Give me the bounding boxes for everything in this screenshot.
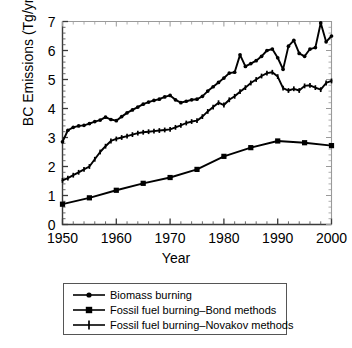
legend-label: Fossil fuel burning–Bond methods (106, 304, 276, 316)
data-point (287, 44, 291, 48)
y-axis-label: BC Emissions (Tg/yr) (20, 0, 36, 150)
data-point (201, 94, 205, 98)
data-point (254, 59, 258, 63)
legend-marker-plus-icon (72, 318, 106, 332)
data-point (211, 85, 215, 89)
data-point (303, 54, 307, 58)
data-point (221, 154, 226, 159)
data-point (292, 39, 296, 43)
data-point (152, 99, 156, 103)
y-tick-label: 5 (48, 72, 56, 88)
x-tick-label: 1960 (101, 230, 132, 246)
data-point (308, 47, 312, 51)
legend: Biomass burning Fossil fuel burning–Bond… (63, 283, 287, 335)
series-line (63, 72, 332, 180)
data-point (120, 115, 124, 119)
data-point (114, 119, 118, 123)
data-point (131, 108, 135, 112)
data-point (104, 115, 108, 119)
y-tick-label: 1 (48, 188, 56, 204)
data-point (265, 49, 269, 53)
data-point (195, 97, 199, 101)
data-point (174, 98, 178, 102)
data-point (87, 195, 92, 200)
legend-item-fossil-fuel-novakov: Fossil fuel burning–Novakov methods (64, 317, 286, 332)
data-point (275, 138, 280, 143)
data-point (324, 40, 328, 44)
series-layer (60, 21, 334, 207)
data-point (297, 52, 301, 56)
data-point (71, 126, 75, 130)
data-point (93, 120, 97, 124)
data-point (260, 54, 264, 58)
data-point (190, 98, 194, 102)
data-point (163, 95, 167, 99)
data-point (238, 53, 242, 57)
data-point (314, 46, 318, 50)
x-tick-label: 1970 (155, 230, 186, 246)
axes-layer: 01234567195019601970198019902000 (47, 14, 347, 246)
data-point (249, 62, 253, 66)
data-point (179, 101, 183, 105)
y-tick-label: 2 (48, 159, 56, 175)
x-tick-label: 2000 (316, 230, 347, 246)
data-point (222, 76, 226, 80)
y-tick-label: 4 (48, 101, 56, 117)
data-point (157, 97, 161, 101)
data-point (147, 100, 151, 104)
legend-item-fossil-fuel-bond: Fossil fuel burning–Bond methods (64, 302, 286, 317)
data-point (168, 175, 173, 180)
legend-label: Fossil fuel burning–Novakov methods (106, 319, 293, 331)
data-point (330, 34, 334, 38)
legend-label: Biomass burning (106, 289, 192, 301)
y-tick-label: 7 (48, 14, 56, 30)
series-3 (63, 70, 332, 183)
figure: 01234567195019601970198019902000 BC Emis… (0, 0, 352, 348)
data-point (248, 145, 253, 150)
data-point (233, 70, 237, 74)
x-axis-label: Year (0, 250, 352, 266)
data-point (319, 21, 323, 25)
data-point (206, 89, 210, 93)
data-point (168, 94, 172, 98)
data-point (114, 188, 119, 193)
data-point (217, 81, 221, 85)
data-point (98, 118, 102, 122)
data-point (281, 68, 285, 72)
data-point (125, 111, 129, 115)
y-tick-label: 6 (48, 43, 56, 59)
legend-marker-square-icon (72, 303, 106, 317)
data-point (329, 143, 334, 148)
data-point (141, 181, 146, 186)
data-point (141, 102, 145, 106)
series-1 (61, 21, 334, 144)
data-point (60, 202, 65, 207)
y-tick-label: 3 (48, 130, 56, 146)
data-point (88, 122, 92, 126)
series-line (63, 23, 332, 142)
data-point (61, 140, 65, 144)
data-point (82, 123, 86, 127)
series-2 (60, 138, 334, 206)
legend-marker-circle-icon (72, 288, 106, 302)
data-point (194, 167, 199, 172)
data-point (270, 47, 274, 51)
data-point (136, 105, 140, 109)
x-tick-label: 1990 (262, 230, 293, 246)
data-point (302, 140, 307, 145)
legend-item-biomass-burning: Biomass burning (64, 287, 286, 302)
data-point (184, 99, 188, 103)
x-tick-label: 1950 (47, 230, 78, 246)
data-point (276, 56, 280, 60)
x-tick-label: 1980 (208, 230, 239, 246)
data-point (66, 128, 70, 132)
data-point (77, 124, 81, 128)
data-point (109, 118, 113, 122)
data-point (227, 71, 231, 75)
data-point (244, 65, 248, 69)
